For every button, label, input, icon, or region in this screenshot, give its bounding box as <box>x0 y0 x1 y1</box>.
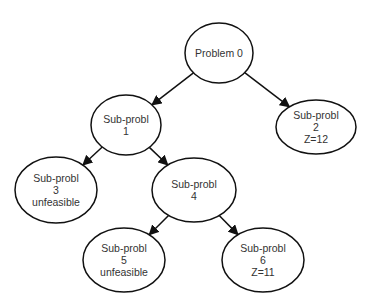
diagram-canvas: Problem 0Sub-probl1Sub-probl2Z=12Sub-pro… <box>0 0 368 305</box>
tree-node-n1: Sub-probl1 <box>91 95 161 155</box>
tree-node-n6: Sub-probl6Z=11 <box>222 228 304 292</box>
node-label-line: Problem 0 <box>195 47 243 59</box>
edge-n4-n5 <box>149 215 168 234</box>
tree-node-n3: Sub-probl3unfeasible <box>15 157 97 223</box>
tree-diagram: Problem 0Sub-probl1Sub-probl2Z=12Sub-pro… <box>0 0 368 305</box>
node-label-line: unfeasible <box>100 266 148 278</box>
edge-n4-n6 <box>219 216 238 235</box>
edge-n1-n4 <box>149 147 167 165</box>
edge-n0-n2 <box>245 73 290 107</box>
node-label-line: 1 <box>123 125 129 137</box>
node-label-line: 2 <box>313 121 319 133</box>
tree-node-n2: Sub-probl2Z=12 <box>276 100 356 154</box>
node-label-line: 3 <box>53 184 59 196</box>
node-label-line: 5 <box>121 254 127 266</box>
node-label-line: 6 <box>260 254 266 266</box>
node-label-line: Sub-probl <box>101 242 147 254</box>
tree-node-n4: Sub-probl4 <box>152 158 236 222</box>
edge-n0-n1 <box>152 73 193 105</box>
node-label-line: Sub-probl <box>171 178 217 190</box>
node-label-line: Sub-probl <box>240 242 286 254</box>
tree-node-n5: Sub-probl5unfeasible <box>83 228 165 292</box>
node-label-line: Sub-probl <box>103 113 149 125</box>
node-label-line: Z=12 <box>304 133 328 145</box>
node-label-line: Z=11 <box>251 266 275 278</box>
node-label-line: unfeasible <box>32 196 80 208</box>
node-label-line: 4 <box>191 190 197 202</box>
node-label-line: Sub-probl <box>293 109 339 121</box>
tree-node-n0: Problem 0 <box>185 23 253 83</box>
nodes: Problem 0Sub-probl1Sub-probl2Z=12Sub-pro… <box>15 23 356 292</box>
node-label-line: Sub-probl <box>33 172 79 184</box>
edge-n1-n3 <box>83 147 102 165</box>
